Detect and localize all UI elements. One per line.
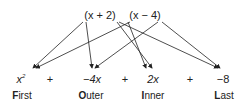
factor-right: (x − 4) — [129, 9, 160, 21]
label-inner: Inner — [142, 90, 165, 101]
plus-sign: + — [47, 73, 53, 85]
label-first: First — [12, 90, 31, 101]
label-outer: Outer — [78, 90, 103, 101]
term-last: −8 — [217, 73, 230, 85]
term-outer: −4x — [83, 73, 101, 85]
term-first: x2 — [17, 73, 26, 85]
factor-left: (x + 2) — [84, 9, 115, 21]
term-inner: 2x — [147, 73, 159, 85]
plus-sign: + — [122, 73, 128, 85]
foil-arrows — [0, 0, 245, 107]
plus-sign: + — [187, 73, 193, 85]
label-last: Last — [214, 90, 233, 101]
